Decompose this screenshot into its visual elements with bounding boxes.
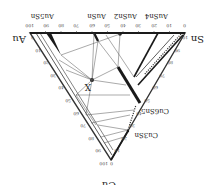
svg-text:90: 90 (95, 148, 101, 153)
ternary-diagram-frame: Au Sn Cu X Au5Sn AuSn AuSn2 AuSn4 Cu6Sn5… (0, 0, 216, 185)
svg-text:60: 60 (89, 23, 95, 28)
phase-label-ausn: AuSn (87, 12, 107, 20)
svg-text:60: 60 (152, 85, 158, 90)
svg-text:50: 50 (104, 23, 110, 28)
sn-rich-boundary-2 (136, 35, 174, 77)
right-tick-labels: 100 90 80 70 60 50 40 30 20 10 0 (110, 35, 188, 166)
svg-text:100: 100 (25, 23, 34, 28)
top-tick-labels: 100 90 80 70 60 50 40 30 20 10 0 (25, 23, 186, 28)
svg-text:10: 10 (166, 23, 172, 28)
ausn4-boundary (134, 33, 158, 77)
svg-text:40: 40 (120, 23, 126, 28)
svg-text:0: 0 (110, 161, 113, 166)
svg-text:50: 50 (144, 98, 150, 103)
phase-label-ausn4: AuSn4 (144, 12, 169, 20)
svg-text:30: 30 (50, 73, 56, 78)
svg-text:10: 10 (35, 48, 41, 53)
svg-text:20: 20 (121, 136, 127, 141)
svg-text:50: 50 (65, 98, 71, 103)
au-cu-inner-line (36, 33, 112, 155)
vertex-label-sn: Sn (190, 34, 204, 45)
vertex-label-cu: Cu (101, 180, 116, 185)
svg-text:100: 100 (179, 35, 188, 40)
svg-text:60: 60 (73, 111, 79, 116)
cu3sn-phase-line (111, 131, 128, 160)
svg-text:90: 90 (174, 48, 180, 53)
ausn-phase-line (94, 33, 98, 41)
svg-text:80: 80 (58, 23, 64, 28)
svg-text:10: 10 (114, 148, 120, 153)
svg-text:70: 70 (80, 123, 86, 128)
svg-text:70: 70 (73, 23, 79, 28)
svg-text:20: 20 (43, 60, 49, 65)
left-tick-labels: 0 10 20 30 40 50 60 70 80 90 100 (31, 35, 108, 166)
marker-label-x: X (84, 82, 91, 92)
au5sn-region (46, 33, 61, 55)
svg-text:90: 90 (43, 23, 49, 28)
au-cu-inner-line-2 (40, 33, 113, 150)
ternary-diagram: Au Sn Cu X Au5Sn AuSn AuSn2 AuSn4 Cu6Sn5… (0, 0, 216, 185)
svg-text:100: 100 (99, 161, 108, 166)
phase-label-cu3sn: Cu3Sn (134, 131, 158, 139)
svg-text:30: 30 (129, 123, 135, 128)
dotted-boundary-1 (144, 34, 181, 75)
cu3sn-point (127, 130, 129, 132)
phase-label-cu6sn5: Cu6Sn5 (141, 107, 169, 115)
phase-label-ausn2: AuSn2 (114, 12, 138, 20)
svg-text:0: 0 (31, 35, 34, 40)
svg-text:70: 70 (159, 73, 165, 78)
svg-text:30: 30 (135, 23, 141, 28)
svg-text:80: 80 (88, 136, 94, 141)
phase-label-au5sn: Au5Sn (30, 12, 55, 20)
svg-text:80: 80 (167, 60, 173, 65)
svg-text:20: 20 (151, 23, 157, 28)
svg-text:0: 0 (183, 23, 186, 28)
vertex-label-au: Au (12, 34, 27, 45)
svg-text:40: 40 (58, 85, 64, 90)
svg-text:40: 40 (136, 111, 142, 116)
